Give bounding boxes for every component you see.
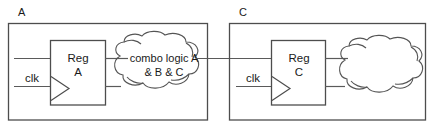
cloud-a-label-line1: combo logic A (130, 52, 199, 64)
cloud-a-label-line2: & B & C (144, 66, 183, 78)
group-c-label: C (239, 6, 247, 18)
register-c-label-line2: C (295, 66, 303, 78)
register-c-label-line1: Reg (288, 52, 309, 64)
group-c: Reg C clk C (230, 6, 426, 120)
group-a-label: A (18, 6, 26, 18)
register-a-label-line1: Reg (67, 52, 88, 64)
group-a: combo logic A & B & C Reg A clk A (9, 6, 208, 120)
diagram-canvas: combo logic A & B & C Reg A clk A (0, 0, 435, 129)
register-a-label-line2: A (74, 66, 82, 78)
group-c-clk-label: clk (246, 72, 260, 84)
group-a-clk-label: clk (25, 72, 39, 84)
register-transfer-diagram: combo logic A & B & C Reg A clk A (0, 0, 435, 129)
